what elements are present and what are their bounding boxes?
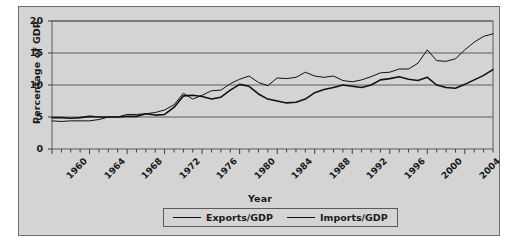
series-line-exports-gdp xyxy=(52,70,493,119)
legend-line-swatch-imports xyxy=(287,217,315,218)
y-tick-label: 10 xyxy=(19,79,43,90)
chart-plot-frame: Percentage of GDP Year 05101520 19601964… xyxy=(18,6,500,236)
legend-item-exports: Exports/GDP xyxy=(173,212,273,223)
data-series-lines xyxy=(52,34,493,122)
legend-item-imports: Imports/GDP xyxy=(287,212,388,223)
legend-label-imports: Imports/GDP xyxy=(320,212,388,223)
gridlines xyxy=(52,21,493,117)
y-tick-label: 20 xyxy=(19,15,43,26)
axis-tick-marks xyxy=(48,21,493,154)
legend-line-swatch-exports xyxy=(173,217,201,218)
legend-label-exports: Exports/GDP xyxy=(206,212,273,223)
x-axis-title: Year xyxy=(19,193,501,204)
y-tick-label: 15 xyxy=(19,47,43,58)
chart-legend: Exports/GDP Imports/GDP xyxy=(163,208,398,227)
y-tick-label: 5 xyxy=(19,111,43,122)
y-tick-label: 0 xyxy=(19,143,43,154)
chart-figure: Percentage of GDP Year 05101520 19601964… xyxy=(0,0,509,244)
